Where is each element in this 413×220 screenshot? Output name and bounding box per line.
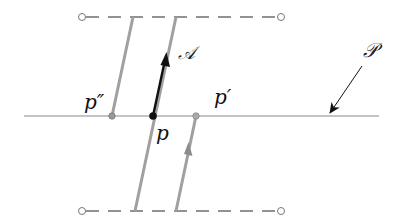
vector-a-shaft: [153, 60, 165, 116]
label-plane: 𝒫: [363, 38, 383, 62]
plane-pointer-arrow: [330, 66, 362, 113]
bottom-right-endpoint-circle: [278, 208, 285, 215]
bottom-boundary: [79, 208, 285, 215]
label-p-double-prime: p″: [84, 90, 105, 114]
point-p: [149, 112, 157, 120]
point-p-prime: [193, 113, 199, 119]
label-vector-a: 𝒜: [178, 42, 200, 63]
label-p: p: [156, 121, 169, 145]
bottom-left-endpoint-circle: [79, 208, 86, 215]
top-boundary: [79, 14, 285, 21]
top-left-endpoint-circle: [79, 14, 86, 21]
label-p-prime: p′: [214, 85, 232, 109]
gray-line-through-p-double-prime: [112, 17, 133, 116]
diagram: p″ p p′ 𝒜 𝒫: [0, 0, 413, 220]
gray-line-through-p-prime: [176, 116, 196, 211]
top-right-endpoint-circle: [278, 14, 285, 21]
point-p-double-prime: [109, 113, 115, 119]
